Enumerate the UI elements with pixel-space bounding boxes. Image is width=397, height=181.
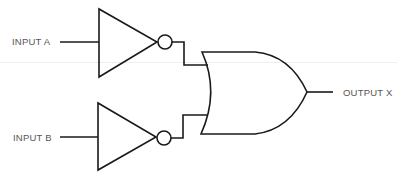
not-gate-b-bubble xyxy=(157,131,171,145)
not-gate-a xyxy=(99,9,157,77)
output-x-label: OUTPUT X xyxy=(343,87,392,98)
input-b-label: INPUT B xyxy=(13,132,52,143)
or-gate xyxy=(201,52,307,134)
input-a-label: INPUT A xyxy=(12,36,50,47)
not-gate-b xyxy=(98,103,156,170)
not-gate-a-bubble xyxy=(158,35,172,49)
logic-diagram xyxy=(0,0,397,181)
